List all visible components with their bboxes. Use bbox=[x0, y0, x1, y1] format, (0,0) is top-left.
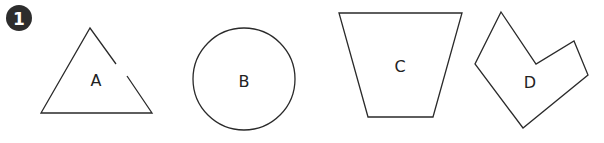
shape-label-a: A bbox=[91, 71, 102, 90]
shape-label-c: C bbox=[394, 57, 405, 76]
shape-label-d: D bbox=[524, 73, 536, 92]
shape-d-hexagon: D bbox=[475, 12, 588, 128]
shape-a-triangle: A bbox=[41, 28, 152, 113]
shape-b-circle: B bbox=[193, 28, 295, 130]
question-number-badge: 1 bbox=[6, 5, 32, 31]
question-number: 1 bbox=[13, 9, 25, 29]
shapes-figure: 1 A B C D bbox=[0, 0, 604, 143]
hexagon-outline bbox=[475, 12, 588, 128]
shape-c-trapezoid: C bbox=[339, 13, 462, 117]
shape-label-b: B bbox=[239, 72, 250, 91]
